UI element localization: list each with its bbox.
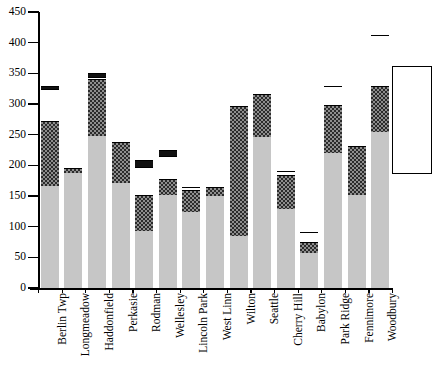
x-axis-tick [85, 288, 86, 293]
bar-segment-series-1 [159, 195, 177, 288]
bar-woodbury[interactable] [371, 35, 389, 288]
y-axis-tick-label: 200 [0, 159, 26, 171]
bar-fennimore[interactable] [348, 146, 366, 288]
bar-park-ridge[interactable] [324, 86, 342, 288]
y-axis-tick-label: 150 [0, 190, 26, 202]
bar-segment-series-4 [88, 73, 106, 77]
x-axis-tick [203, 288, 204, 293]
y-axis-tick [28, 73, 39, 74]
x-axis-tick [132, 288, 133, 293]
x-axis-category-label: Perkasie [127, 293, 139, 332]
bar-segment-series-2 [206, 187, 224, 196]
bar-lincoln-park[interactable] [182, 187, 200, 288]
bar-segment-series-1 [324, 153, 342, 288]
x-axis-tick [274, 288, 275, 293]
x-axis-tick [368, 288, 369, 293]
bar-west-linn[interactable] [206, 187, 224, 288]
bar-segment-series-1 [300, 253, 318, 288]
x-axis-tick [38, 288, 39, 293]
x-axis-category-label: Wilton [245, 293, 257, 324]
bar-perkasie[interactable] [112, 142, 130, 288]
y-axis-tick [28, 103, 39, 104]
y-axis-tick [28, 226, 39, 227]
x-axis-category-label: Woodbury [386, 293, 398, 341]
bar-haddonfield[interactable] [88, 73, 106, 288]
bar-babylon[interactable] [300, 232, 318, 288]
x-axis-category-label: Babylon [315, 293, 327, 332]
x-axis-tick [345, 288, 346, 293]
x-axis-tick [321, 288, 322, 293]
x-axis-tick [227, 288, 228, 293]
bar-segment-series-2 [371, 86, 389, 132]
y-axis-tick-label: 300 [0, 98, 26, 110]
y-axis-tick [28, 195, 39, 196]
bar-segment-series-2 [277, 175, 295, 209]
bar-segment-series-3 [277, 171, 295, 175]
bar-segment-series-1 [41, 186, 59, 288]
x-axis-tick [156, 288, 157, 293]
bar-segment-series-2 [41, 121, 59, 185]
chart-legend [392, 66, 432, 174]
bar-segment-series-2 [182, 190, 200, 212]
bar-segment-series-4 [159, 150, 177, 156]
x-axis-category-label: Wellesley [174, 293, 186, 338]
y-axis-labels: 050100150200250300350400450 [0, 0, 26, 373]
x-axis-category-label: Fennimore [363, 293, 375, 343]
bar-segment-series-2 [135, 195, 153, 231]
bar-segment-series-2 [88, 79, 106, 135]
bar-segment-series-1 [206, 196, 224, 288]
bar-segment-series-1 [277, 209, 295, 288]
bar-segment-series-1 [230, 236, 248, 288]
bar-segment-series-1 [182, 212, 200, 288]
bar-segment-series-1 [135, 231, 153, 288]
bar-segment-series-3 [182, 187, 200, 190]
x-axis-tick [250, 288, 251, 293]
bar-segment-series-3 [159, 156, 177, 179]
bar-segment-series-1 [88, 136, 106, 288]
bar-segment-series-2 [159, 179, 177, 195]
x-axis-category-label: Cherry Hill [292, 293, 304, 346]
y-axis-tick-label: 350 [0, 67, 26, 79]
bar-segment-series-1 [371, 132, 389, 288]
y-axis-tick-label: 0 [0, 282, 26, 294]
chart-title [60, 0, 360, 4]
bar-wellesley[interactable] [159, 150, 177, 288]
x-axis-tick [180, 288, 181, 293]
bar-segment-series-3 [300, 232, 318, 242]
bar-segment-series-4 [135, 160, 153, 167]
bar-segment-series-2 [253, 94, 271, 137]
bar-segment-series-2 [112, 142, 130, 182]
x-axis-category-label: Berlin Twp [56, 293, 68, 345]
bar-segment-series-3 [135, 167, 153, 195]
bar-longmeadow[interactable] [64, 168, 82, 288]
y-axis-tick-label: 50 [0, 251, 26, 263]
y-axis-tick [28, 42, 39, 43]
bar-berlin-twp[interactable] [41, 86, 59, 288]
bar-seattle[interactable] [253, 94, 271, 288]
bar-segment-series-1 [112, 183, 130, 288]
bar-segment-series-4 [41, 86, 59, 89]
x-axis-tick [298, 288, 299, 293]
bar-segment-series-3 [41, 89, 59, 122]
bar-wilton[interactable] [230, 106, 248, 288]
bar-segment-series-1 [253, 137, 271, 288]
bar-segment-series-3 [88, 77, 106, 79]
y-axis-tick-label: 100 [0, 221, 26, 233]
x-axis-category-label: West Linn [221, 293, 233, 340]
x-axis-category-label: Lincoln Park [197, 293, 209, 353]
bar-segment-series-2 [324, 105, 342, 153]
x-axis-category-label: Haddonfield [103, 293, 115, 350]
bar-rodman[interactable] [135, 160, 153, 288]
bar-cherry-hill[interactable] [277, 171, 295, 288]
bar-segment-series-1 [64, 173, 82, 288]
y-axis-tick [28, 11, 39, 12]
x-axis-category-label: Seattle [268, 293, 280, 324]
x-axis-tick [109, 288, 110, 293]
y-axis-tick-label: 400 [0, 37, 26, 49]
bar-segment-series-2 [348, 146, 366, 196]
x-axis-tick [62, 288, 63, 293]
bar-segment-series-2 [300, 242, 318, 253]
bar-segment-series-1 [348, 195, 366, 288]
x-axis-category-label: Longmeadow [79, 293, 91, 356]
